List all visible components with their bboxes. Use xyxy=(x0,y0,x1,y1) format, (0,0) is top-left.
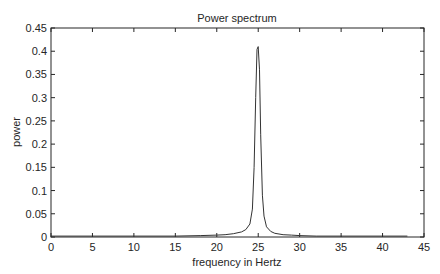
x-axis-ticks: 051015202530354045 xyxy=(48,28,430,253)
y-tick-label: 0.15 xyxy=(26,161,47,173)
power-spectrum-line xyxy=(51,47,407,237)
y-tick-label: 0.25 xyxy=(26,115,47,127)
x-axis-label: frequency in Hertz xyxy=(192,256,281,268)
y-tick-label: 0 xyxy=(41,231,47,243)
y-tick-label: 0.45 xyxy=(26,22,47,34)
y-axis-label: power xyxy=(10,117,22,147)
x-tick-label: 40 xyxy=(376,241,388,253)
x-tick-label: 5 xyxy=(89,241,95,253)
y-tick-label: 0.2 xyxy=(32,138,47,150)
y-tick-label: 0.1 xyxy=(32,185,47,197)
x-tick-label: 15 xyxy=(169,241,181,253)
x-tick-label: 0 xyxy=(48,241,54,253)
y-tick-label: 0.05 xyxy=(26,208,47,220)
y-tick-label: 0.35 xyxy=(26,68,47,80)
x-tick-label: 20 xyxy=(211,241,223,253)
x-tick-label: 10 xyxy=(128,241,140,253)
y-tick-label: 0.3 xyxy=(32,92,47,104)
x-tick-label: 35 xyxy=(335,241,347,253)
power-spectrum-chart: Power spectrum 051015202530354045 00.050… xyxy=(0,0,440,274)
chart-title: Power spectrum xyxy=(197,12,276,24)
axes-frame xyxy=(51,28,424,237)
y-axis-ticks: 00.050.10.150.20.250.30.350.40.45 xyxy=(26,22,424,243)
x-tick-label: 45 xyxy=(418,241,430,253)
y-tick-label: 0.4 xyxy=(32,45,47,57)
x-tick-label: 25 xyxy=(252,241,264,253)
x-tick-label: 30 xyxy=(294,241,306,253)
